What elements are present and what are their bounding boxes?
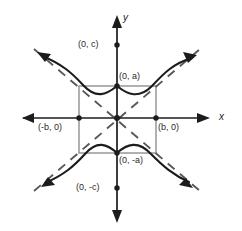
label-co-vertex-right: (b, 0) [158,122,179,132]
label-focus-bottom: (0, -c) [76,182,100,192]
x-axis-right-arrowhead [197,113,210,123]
x-axis-label: x [219,112,224,122]
point-co-vertex-left [76,115,81,120]
point-vertex-top [114,83,119,88]
y-axis-label: y [123,13,128,23]
label-focus-top: (0, c) [78,39,99,49]
lower-right-branch-arrowhead [179,178,193,188]
y-axis-top-arrowhead [112,15,122,28]
label-vertex-top: (0, a) [119,71,140,81]
hyperbola-svg [0,0,242,231]
point-origin [114,115,120,121]
hyperbola-figure: (0, c) (0, a) (b, 0) (-b, 0) (0, -a) (0,… [0,0,242,231]
y-axis-bottom-arrowhead [112,210,122,223]
label-vertex-bottom: (0, -a) [119,155,143,165]
point-focus-top [114,42,119,47]
point-co-vertex-right [153,115,158,120]
label-co-vertex-left: (-b, 0) [38,122,62,132]
point-focus-bottom [114,185,119,190]
x-axis-left-arrowhead [22,113,34,123]
